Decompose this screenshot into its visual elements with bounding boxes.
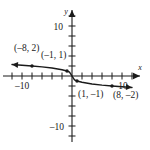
coordinate-plane-figure: x y –10 10 10 –10 (–8, 2)(–1, 1)(1, –1)(…	[0, 0, 150, 150]
x-axis-label: x	[137, 63, 142, 72]
graph-svg: x y –10 10 10 –10 (–8, 2)(–1, 1)(1, –1)(…	[0, 0, 150, 150]
data-point-p4	[110, 84, 113, 87]
data-point-p1	[30, 64, 33, 67]
point-label-p1: (–8, 2)	[14, 43, 39, 54]
x-tick-label-neg10: –10	[14, 81, 30, 91]
data-point-p2	[65, 69, 68, 72]
y-axis-label: y	[63, 7, 68, 16]
data-point-p3	[75, 79, 78, 82]
point-label-p3: (1, –1)	[78, 89, 103, 100]
x-axis-arrowhead	[133, 73, 140, 79]
y-tick-label-pos10: 10	[54, 22, 64, 32]
point-label-p4: (8, –2)	[113, 90, 138, 101]
point-labels-group: (–8, 2)(–1, 1)(1, –1)(8, –2)	[14, 43, 138, 102]
curve-left-arrowhead	[12, 62, 18, 68]
y-tick-label-neg10: –10	[49, 122, 65, 132]
point-label-p2: (–1, 1)	[41, 50, 66, 61]
